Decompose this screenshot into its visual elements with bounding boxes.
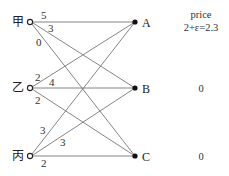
price-A: 2+ε=2.3	[184, 22, 219, 33]
seller-label-A: A	[142, 16, 151, 30]
buyer-label-jia: 甲	[12, 15, 24, 29]
buyer-node-bing	[27, 153, 32, 158]
valuation-jia-A: 5	[41, 9, 47, 21]
seller-node-B	[132, 85, 137, 90]
price-C: 0	[198, 151, 203, 162]
price-header: price	[191, 9, 212, 20]
edge-bing-B	[33, 88, 135, 155]
seller-node-A	[132, 19, 137, 24]
edge-labels: 5 3 0 2 4 2 3 3 2	[35, 9, 66, 169]
valuation-bing-B: 3	[60, 136, 66, 148]
edge-jia-C	[32, 24, 135, 156]
valuation-yi-C: 2	[35, 94, 41, 106]
seller-label-B: B	[142, 82, 150, 96]
seller-node-C	[132, 153, 137, 158]
buyer-label-yi: 乙	[12, 81, 24, 95]
valuation-bing-A: 3	[40, 124, 46, 136]
bipartite-graph: 5 3 0 2 4 2 3 3 2 甲 乙 丙 A B C price 2+ε=…	[0, 0, 229, 176]
buyer-nodes: 甲 乙 丙	[12, 15, 33, 163]
valuation-jia-C: 0	[36, 36, 42, 48]
buyer-node-yi	[27, 85, 32, 90]
buyer-label-bing: 丙	[12, 149, 24, 163]
valuation-yi-B: 4	[49, 76, 55, 88]
price-column: price 2+ε=2.3 0 0	[184, 9, 219, 162]
seller-label-C: C	[142, 150, 150, 164]
buyer-node-jia	[27, 19, 32, 24]
valuation-jia-B: 3	[48, 22, 54, 34]
price-B: 0	[198, 83, 203, 94]
seller-nodes: A B C	[132, 16, 151, 164]
valuation-yi-A: 2	[35, 71, 41, 83]
valuation-bing-C: 2	[41, 157, 47, 169]
edges	[32, 22, 135, 156]
